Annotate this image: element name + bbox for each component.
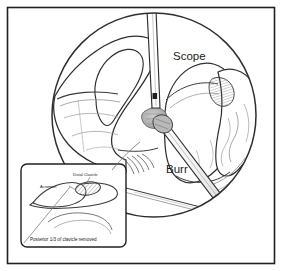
- illustration-canvas: Scope Burr Di: [0, 0, 282, 271]
- inset-label-acromion: Acromion: [40, 184, 56, 189]
- scope-tip: [153, 93, 158, 99]
- burr-label: Burr: [166, 163, 188, 175]
- inset-diagram: Distal Clavicle Acromion Posterior 1/3 o…: [21, 164, 126, 247]
- inset-caption: Posterior 1/3 of clavicle removed: [30, 237, 97, 242]
- inset-label-distal-clavicle: Distal Clavicle: [73, 172, 97, 177]
- figure-root: Scope Burr Di: [0, 0, 282, 271]
- scope-label: Scope: [173, 50, 206, 62]
